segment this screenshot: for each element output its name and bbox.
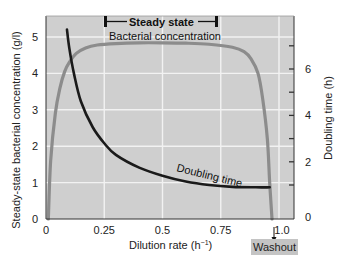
y2-tick-label: 0: [305, 211, 311, 223]
y-tick-label: 1: [32, 177, 38, 189]
x-tick-label: 0: [43, 224, 49, 236]
steady-state-label: Steady state: [129, 16, 194, 28]
y2-axis-title: Doubling time (h): [322, 76, 334, 160]
y2-tick-label: 4: [305, 109, 311, 121]
y-tick-label: 5: [32, 31, 38, 43]
y-tick-label: 0: [32, 213, 38, 225]
y-tick-label: 4: [32, 67, 38, 79]
y-tick-label: 3: [32, 104, 38, 116]
x-tick-label: 0.75: [210, 224, 231, 236]
y-axis-title: Steady-state bacterial concentration (g/…: [10, 31, 22, 229]
x-tick-label: 0.5: [155, 224, 170, 236]
x-tick-label: 0.25: [94, 224, 115, 236]
washout-marker: Washout: [251, 227, 298, 255]
y2-tick-label: 2: [305, 156, 311, 168]
y2-tick-label: 6: [305, 63, 311, 75]
washout-label: Washout: [253, 241, 296, 253]
x-axis-title: Dilution rate (h−1): [129, 239, 212, 251]
y-tick-label: 2: [32, 140, 38, 152]
x-tick-label: 1.0: [274, 224, 289, 236]
bacterial-concentration-label: Bacterial concentration: [109, 30, 221, 42]
chart: 01234500.250.50.751.00246 Steady state B…: [0, 0, 338, 267]
